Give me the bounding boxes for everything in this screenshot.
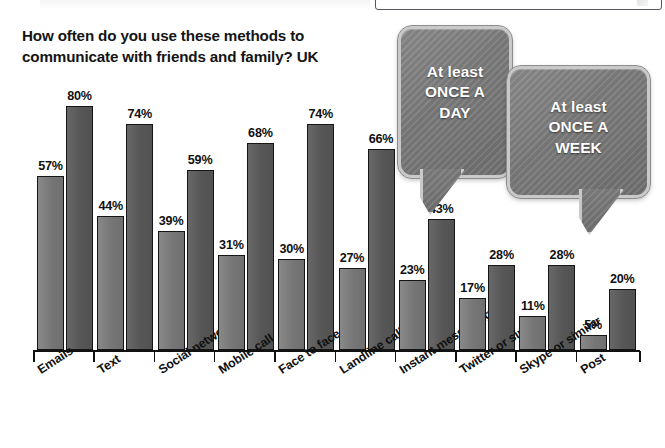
callout-once-a-week: At least ONCE A WEEK xyxy=(507,66,644,226)
bar-value-label: 39% xyxy=(153,214,190,228)
bar-social-network-week xyxy=(158,231,185,350)
callout-week-body: At least ONCE A WEEK xyxy=(507,66,650,198)
bar-face-to-face-day xyxy=(307,124,334,350)
callout-day-line2: ONCE A xyxy=(401,82,509,102)
bar-text-week xyxy=(97,216,124,350)
bar-value-label: 28% xyxy=(483,248,520,262)
x-axis-tick xyxy=(93,351,95,362)
callout-week-line2: ONCE A xyxy=(510,117,647,137)
bar-value-label: 68% xyxy=(242,126,279,140)
x-axis-tick xyxy=(274,351,276,362)
bar-twitter-or-similar-week xyxy=(459,298,486,350)
bar-face-to-face-week xyxy=(278,259,305,351)
bar-emails-week xyxy=(37,176,64,350)
callout-week-line3: WEEK xyxy=(510,138,647,158)
callout-day-body: At least ONCE A DAY xyxy=(398,26,512,178)
bar-post-day xyxy=(609,289,636,350)
x-axis-label-text: Text xyxy=(95,352,123,377)
callout-day-tail xyxy=(420,169,464,215)
x-axis-tick xyxy=(395,351,397,362)
bar-value-label: 74% xyxy=(302,107,339,121)
bar-value-label: 5% xyxy=(575,318,612,332)
bar-value-label: 74% xyxy=(121,107,158,121)
bar-value-label: 59% xyxy=(182,153,219,167)
x-axis-tick xyxy=(154,351,156,362)
bar-landline-call-day xyxy=(368,149,395,350)
bar-instant-messaging-week xyxy=(399,280,426,350)
callout-day-text: At least ONCE A DAY xyxy=(401,62,509,123)
callout-day-line1: At least xyxy=(401,62,509,82)
bar-value-label: 28% xyxy=(543,248,580,262)
bar-text-day xyxy=(126,124,153,350)
bar-value-label: 11% xyxy=(514,299,551,313)
bar-post-week xyxy=(580,335,607,350)
callout-week-text: At least ONCE A WEEK xyxy=(510,97,647,158)
x-axis-tick xyxy=(639,351,641,362)
callout-once-a-day: At least ONCE A DAY xyxy=(398,26,506,216)
x-axis-tick xyxy=(33,351,35,362)
bar-skype-or-similar-week xyxy=(519,316,546,350)
bar-social-network-day xyxy=(187,170,214,350)
x-axis-tick xyxy=(576,351,578,362)
bar-value-label: 44% xyxy=(92,199,129,213)
bar-value-label: 80% xyxy=(61,89,98,103)
x-axis-label-post: Post xyxy=(578,351,608,377)
bar-value-label: 30% xyxy=(273,242,310,256)
callout-week-line1: At least xyxy=(510,97,647,117)
bar-value-label: 20% xyxy=(604,272,641,286)
bar-emails-day xyxy=(66,106,93,350)
x-axis-tick xyxy=(515,351,517,362)
bar-landline-call-week xyxy=(339,268,366,350)
bar-value-label: 27% xyxy=(334,251,371,265)
bar-value-label: 57% xyxy=(32,159,69,173)
callout-day-line3: DAY xyxy=(401,103,509,123)
bar-value-label: 66% xyxy=(363,132,400,146)
bar-value-label: 17% xyxy=(454,281,491,295)
bar-value-label: 31% xyxy=(213,238,250,252)
x-axis-tick xyxy=(214,351,216,362)
bar-value-label: 23% xyxy=(394,263,431,277)
bar-mobile-call-week xyxy=(218,255,245,350)
x-axis-tick xyxy=(335,351,337,362)
x-axis-tick xyxy=(455,351,457,362)
bar-mobile-call-day xyxy=(247,143,274,350)
